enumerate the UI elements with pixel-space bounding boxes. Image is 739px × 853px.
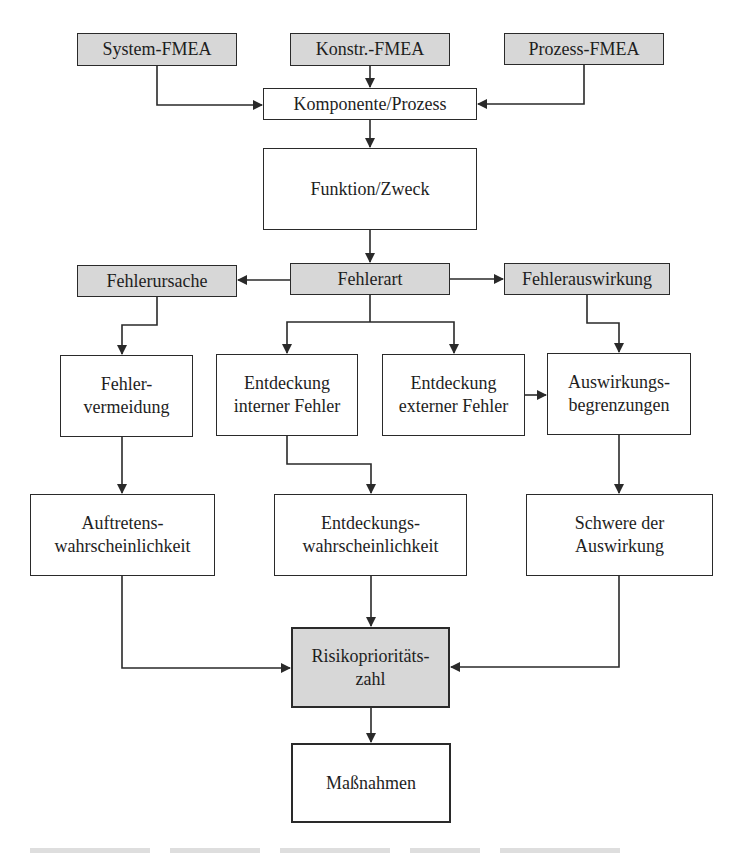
fmea-flowchart: System-FMEA Konstr.-FMEA Prozess-FMEA Ko… [0, 0, 739, 853]
edge-prozess-to-komponente [478, 65, 584, 104]
edge-schwere-to-rpz [451, 576, 619, 667]
node-entdeckung-intern: Entdeckung interner Fehler [216, 354, 358, 436]
node-prozess-fmea: Prozess-FMEA [504, 33, 664, 65]
edge-entdeckung-intern-to-entdeckungswk [287, 436, 371, 493]
node-auswirkungsbegrenzungen: Auswirkungs- begrenzungen [547, 353, 691, 435]
node-schwere-der-auswirkung: Schwere der Auswirkung [526, 494, 713, 576]
node-entdeckungswahrscheinlichkeit: Entdeckungs- wahrscheinlichkeit [274, 494, 467, 576]
node-fehlerart: Fehlerart [290, 263, 450, 295]
node-konstr-fmea: Konstr.-FMEA [290, 33, 450, 66]
node-risikoprioritaetszahl: Risikoprioritäts- zahl [291, 627, 450, 708]
edge-auftretens-to-rpz [122, 576, 290, 668]
edge-fehlerursache-to-fehlervermeidung [122, 297, 157, 354]
node-funktion-zweck: Funktion/Zweck [263, 148, 477, 230]
node-fehlerursache: Fehlerursache [77, 265, 237, 297]
node-system-fmea: System-FMEA [77, 33, 237, 66]
node-komponente-prozess: Komponente/Prozess [263, 88, 477, 120]
cut-off-caption [30, 847, 630, 853]
node-entdeckung-extern: Entdeckung externer Fehler [382, 354, 525, 436]
edge-system-to-komponente [157, 66, 262, 105]
node-fehlervermeidung: Fehler- vermeidung [60, 355, 193, 437]
node-massnahmen: Maßnahmen [291, 743, 451, 823]
node-auftretenswahrscheinlichkeit: Auftretens- wahrscheinlichkeit [30, 494, 215, 576]
edge-fehlerart-to-entdeckung-extern [370, 322, 454, 353]
edge-fehlerart-to-entdeckung-intern [287, 322, 370, 353]
node-fehlerauswirkung: Fehlerauswirkung [504, 263, 670, 295]
edge-fehlerauswirkung-to-auswirkungsbegrenzungen [587, 295, 619, 352]
